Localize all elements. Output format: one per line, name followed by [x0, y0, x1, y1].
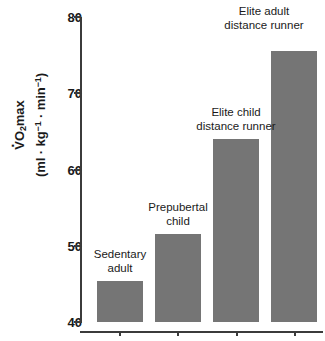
bar-label-line2: distance runner: [206, 19, 322, 33]
bar-label-line1: Prepubertal: [132, 201, 224, 215]
y-axis-title-line1: VO2max: [12, 100, 31, 149]
bar-elite-child-distance-runner: [213, 139, 259, 322]
bar-label-line2: child: [132, 215, 224, 229]
x-tick-mark-4: [294, 331, 296, 336]
y-axis-max: max: [12, 100, 27, 126]
y-axis-units-close: ): [33, 73, 48, 77]
y-axis-o: O: [12, 131, 27, 141]
v-dot-accent: V: [12, 141, 27, 150]
plot-area: Sedentary adult Prepubertal child Elite …: [82, 17, 323, 322]
x-tick-mark-3: [236, 331, 238, 336]
bar-label-line1: Sedentary: [74, 248, 166, 262]
x-axis-line: [80, 331, 323, 333]
bar-label-elite-child-distance-runner: Elite child distance runner: [178, 106, 294, 133]
bar-label-line2: distance runner: [178, 120, 294, 134]
bar-label-line2: adult: [74, 262, 166, 276]
chart-container: VO2max (ml · kg−1 · min−1) 80 70 60 50 4…: [0, 0, 325, 341]
bar-label-line1: Elite child: [178, 106, 294, 120]
y-axis-subscript-2: 2: [18, 126, 28, 131]
bar-label-sedentary-adult: Sedentary adult: [74, 248, 166, 275]
bar-elite-adult-distance-runner: [271, 51, 317, 322]
x-tick-mark-2: [177, 331, 179, 336]
x-tick-mark-1: [119, 331, 121, 336]
y-axis-units-exp1: −1: [33, 121, 43, 131]
bar-label-line1: Elite adult: [206, 5, 322, 19]
bar-label-elite-adult-distance-runner: Elite adult distance runner: [206, 5, 322, 32]
bar-label-prepubertal-child: Prepubertal child: [132, 201, 224, 228]
y-axis-title: VO2max (ml · kg−1 · min−1): [10, 35, 50, 215]
y-axis-v: V: [12, 141, 27, 150]
bar-sedentary-adult: [97, 281, 143, 322]
